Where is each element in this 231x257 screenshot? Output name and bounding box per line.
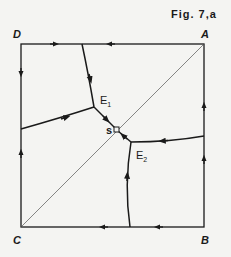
saddle-label-s: s (106, 124, 112, 136)
diagonal-ca (21, 44, 204, 227)
trajectory-left-to-e1 (21, 107, 94, 129)
trajectory-bottom-to-e2 (127, 142, 131, 227)
corner-label-d: D (13, 28, 21, 40)
figure-title: Fig. 7,a (171, 8, 217, 20)
corner-label-c: C (13, 234, 22, 246)
trajectory-top-to-e1 (82, 44, 94, 107)
equilibrium-label-e2: E2 (136, 149, 147, 163)
corner-label-b: B (201, 234, 209, 246)
phase-diagram: Fig. 7,a D A C B E1 E2 s (0, 0, 231, 257)
saddle-point-marker (114, 127, 119, 132)
equilibrium-label-e1: E1 (100, 94, 111, 108)
corner-label-a: A (200, 28, 209, 40)
